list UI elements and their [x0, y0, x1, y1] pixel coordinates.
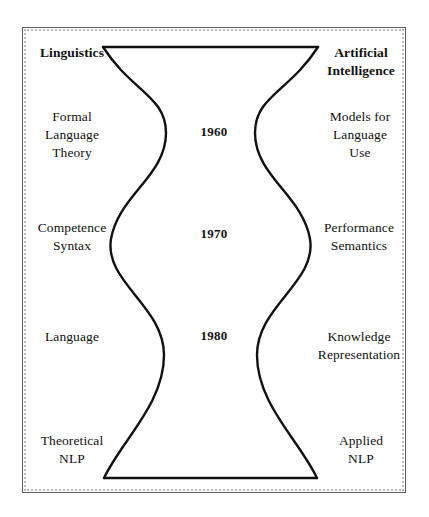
diagram-page: Linguistics Formal Language Theory Compe…: [0, 0, 429, 517]
label-formal-language-theory: Formal Language Theory: [20, 108, 124, 161]
label-theoretical-nlp: Theoretical NLP: [18, 432, 126, 468]
decade-label-1980: 1980: [186, 328, 242, 344]
label-artificial-intelligence: Artificial Intelligence: [312, 44, 410, 80]
label-performance-semantics: Performance Semantics: [302, 219, 416, 255]
decade-label-1960: 1960: [186, 124, 242, 140]
label-knowledge-representation: Knowledge Representation: [296, 328, 422, 364]
decade-label-1970: 1970: [186, 226, 242, 242]
label-competence-syntax: Competence Syntax: [16, 219, 128, 255]
label-language: Language: [20, 328, 124, 346]
label-models-for-language-use: Models for Language Use: [306, 108, 414, 161]
label-applied-nlp: Applied NLP: [312, 432, 410, 468]
label-linguistics: Linguistics: [24, 44, 120, 62]
